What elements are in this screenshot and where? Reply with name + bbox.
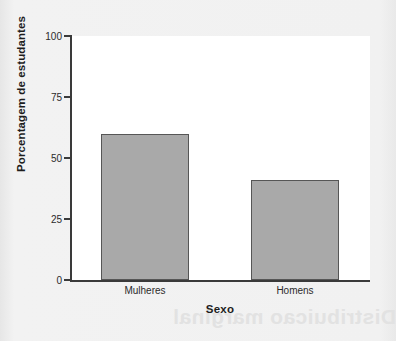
y-axis-line [70, 35, 72, 281]
y-tick-label-25: 25 [34, 214, 62, 225]
y-tick-label-0: 0 [34, 275, 62, 286]
x-tick-label-mulheres: Mulheres [70, 285, 220, 296]
y-tick-label-100: 100 [34, 31, 62, 42]
y-tick-label-75: 75 [34, 92, 62, 103]
x-axis-line [70, 280, 370, 282]
chart-figure: Distribuicao marginal 100 75 50 25 0 Por… [0, 0, 396, 341]
y-tick-label-50: 50 [34, 153, 62, 164]
y-axis-title: Porcentagem de estudantes [15, 8, 27, 180]
bar-homens [251, 180, 339, 280]
bar-mulheres [101, 134, 189, 280]
x-tick-label-homens: Homens [220, 285, 370, 296]
x-axis-title: Sexo [70, 303, 370, 315]
